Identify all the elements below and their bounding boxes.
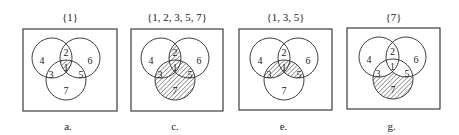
region-label-3: 3 [267,69,272,80]
venn-panel-c: 4263157{1, 2, 3, 5, 7}c. [131,11,223,132]
region-label-3: 3 [376,68,381,79]
region-label-1: 1 [282,62,287,73]
region-label-2: 2 [64,47,69,58]
venn-panel-e: 4263157{1, 3, 5}e. [239,11,332,132]
region-label-5: 5 [79,69,84,80]
region-label-7: 7 [391,84,396,95]
region-label-2: 2 [390,46,395,57]
region-label-6: 6 [88,55,93,66]
region-label-3: 3 [49,69,54,80]
panel-caption-c: c. [171,120,179,132]
region-label-1: 1 [173,62,178,73]
region-label-7: 7 [173,85,178,96]
region-label-7: 7 [64,85,69,96]
venn-panel-g: 4263157{7}g. [347,11,440,132]
region-label-5: 5 [188,69,193,80]
region-label-1: 1 [64,62,69,73]
region-label-5: 5 [297,69,302,80]
region-label-6: 6 [197,55,202,66]
panel-caption-e: e. [280,120,288,132]
venn-panel-a: 4263157{1}a. [23,11,117,132]
region-label-2: 2 [282,47,287,58]
region-label-2: 2 [173,47,178,58]
region-label-6: 6 [414,54,419,65]
region-label-7: 7 [282,85,287,96]
region-label-3: 3 [158,69,163,80]
region-label-4: 4 [367,54,372,65]
shaded-region-1 [23,29,117,111]
region-label-4: 4 [149,55,154,66]
region-label-6: 6 [306,55,311,66]
panel-title-g: {7} [385,11,401,23]
panel-caption-g: g. [387,120,396,132]
region-label-4: 4 [40,55,45,66]
region-label-4: 4 [258,55,263,66]
panel-title-c: {1, 2, 3, 5, 7} [147,11,207,23]
universe-rectangle [23,29,117,111]
venn-diagram-figure: 4263157{1}a.4263157{1, 2, 3, 5, 7}c.4263… [0,0,459,135]
panel-title-a: {1} [62,11,78,23]
region-label-5: 5 [405,68,410,79]
panel-caption-a: a. [64,120,72,132]
panel-title-e: {1, 3, 5} [266,11,304,23]
region-label-1: 1 [390,61,395,72]
